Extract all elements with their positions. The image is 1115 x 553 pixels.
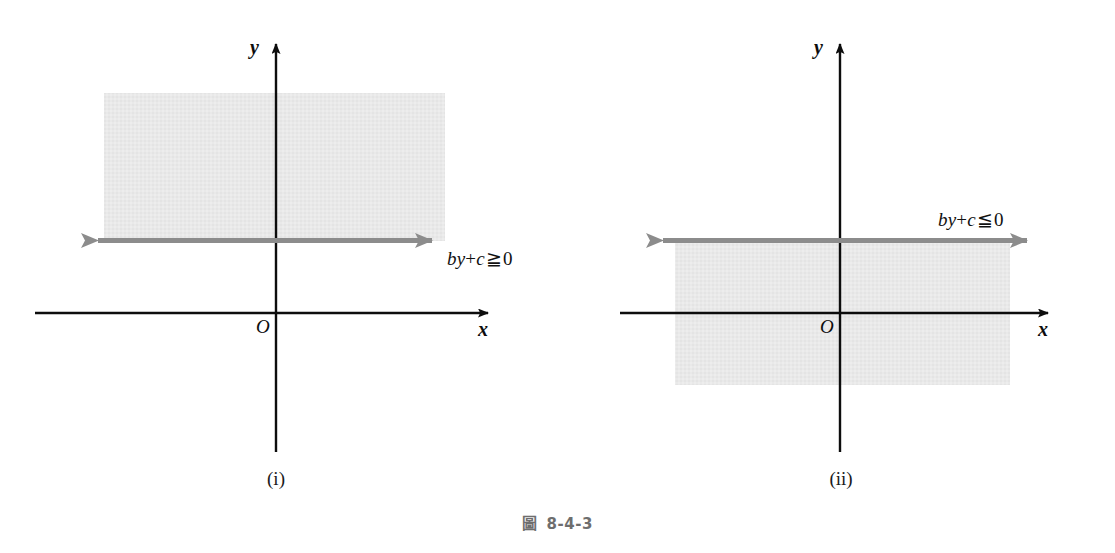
inequality-label-panel-ii: by+c≦0 — [938, 208, 1004, 231]
figure-caption: 圖8-4-3 — [0, 512, 1115, 533]
figure-caption-number: 8-4-3 — [547, 515, 593, 533]
inequality-plus-panel-i: + — [465, 248, 476, 269]
inequality-plus-panel-ii: + — [956, 209, 967, 230]
sublabel-panel-ii: (ii) — [798, 468, 884, 490]
y-axis-label-panel-ii: y — [814, 36, 823, 59]
x-axis-label-panel-i: x — [478, 318, 488, 341]
figure-caption-mark: 圖 — [522, 515, 538, 533]
inequality-zero-panel-i: 0 — [503, 248, 513, 269]
y-axis-label-panel-i: y — [250, 36, 259, 59]
inequality-relation-panel-ii: ≦ — [977, 209, 993, 230]
origin-label-panel-i: O — [256, 316, 270, 338]
origin-label-panel-ii: O — [820, 316, 834, 338]
sublabel-panel-i: (i) — [236, 468, 316, 490]
x-axis-label-panel-ii: x — [1038, 318, 1048, 341]
inequality-zero-panel-ii: 0 — [994, 209, 1004, 230]
axes-layer — [0, 0, 1115, 553]
inequality-label-panel-i: by+c≧0 — [447, 247, 513, 270]
inequality-constant-c-panel-ii: c — [967, 209, 976, 230]
inequality-coefficient-b-panel-ii: b — [938, 209, 948, 230]
figure-container: y x O by+c≧0 (i) y x O by+c≦0 (ii) 圖8-4-… — [0, 0, 1115, 553]
inequality-coefficient-b-panel-i: b — [447, 248, 457, 269]
inequality-constant-c-panel-i: c — [476, 248, 485, 269]
inequality-relation-panel-i: ≧ — [486, 248, 502, 269]
